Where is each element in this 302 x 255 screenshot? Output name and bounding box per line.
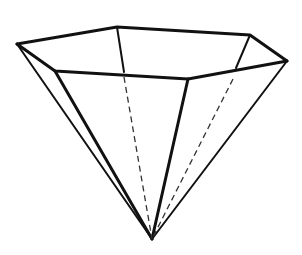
pyramid-figure xyxy=(0,0,302,255)
back-right-edge-hidden xyxy=(152,79,233,239)
pyramid-drawing xyxy=(0,0,302,255)
back-left-edge-visible xyxy=(117,27,124,72)
back-right-edge-visible xyxy=(236,35,250,68)
lateral-edge-front-left xyxy=(55,71,152,239)
